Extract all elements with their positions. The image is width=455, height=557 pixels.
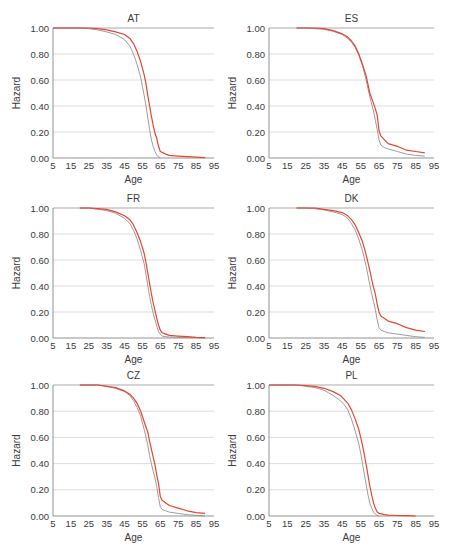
y-axis-label: Hazard (11, 77, 22, 109)
series-line-red (297, 28, 425, 153)
x-tick-label: 35 (319, 518, 330, 529)
y-tick-label: 0.60 (247, 432, 266, 443)
x-tick-label: 85 (410, 160, 421, 171)
series-line-gray (80, 385, 205, 516)
x-tick-label: 95 (429, 340, 440, 351)
x-tick-label: 5 (50, 160, 55, 171)
x-tick-label: 65 (155, 340, 166, 351)
series-line-red (80, 385, 205, 513)
x-tick-label: 35 (101, 518, 112, 529)
panel-pl: 0.000.200.400.600.801.005152535455565758… (227, 370, 439, 543)
series-line-red (297, 208, 425, 332)
y-tick-label: 0.40 (247, 101, 266, 112)
x-tick-label: 15 (282, 518, 293, 529)
y-tick-label: 0.80 (247, 406, 266, 417)
y-tick-label: 1.00 (31, 203, 50, 214)
y-axis-label: Hazard (227, 257, 238, 289)
y-tick-label: 0.60 (247, 255, 266, 266)
y-tick-label: 0.40 (247, 458, 266, 469)
y-axis-label: Hazard (227, 434, 238, 466)
y-tick-label: 0.00 (31, 333, 50, 344)
x-tick-label: 95 (209, 160, 220, 171)
y-tick-label: 0.00 (31, 153, 50, 164)
x-tick-label: 85 (191, 160, 202, 171)
x-axis-label: Age (343, 174, 361, 185)
x-tick-label: 35 (101, 160, 112, 171)
x-axis-label: Age (343, 532, 361, 543)
y-tick-label: 1.00 (247, 23, 266, 34)
y-tick-label: 0.20 (247, 307, 266, 318)
panel-title: CZ (127, 370, 140, 381)
panel-title: FR (127, 193, 140, 204)
y-tick-label: 0.60 (31, 432, 50, 443)
y-tick-label: 1.00 (31, 380, 50, 391)
y-tick-label: 0.80 (31, 49, 50, 60)
y-tick-label: 0.80 (31, 229, 50, 240)
series-line-gray (297, 28, 425, 156)
y-tick-label: 0.00 (247, 333, 266, 344)
x-tick-label: 45 (337, 160, 348, 171)
y-tick-label: 0.80 (31, 406, 50, 417)
panel-title: DK (345, 193, 359, 204)
hazard-chart-grid: 0.000.200.400.600.801.005152535455565758… (0, 0, 455, 557)
y-tick-label: 0.40 (31, 458, 50, 469)
y-axis-label: Hazard (11, 434, 22, 466)
x-tick-label: 45 (119, 518, 130, 529)
x-tick-label: 55 (137, 160, 148, 171)
y-tick-label: 0.20 (31, 127, 50, 138)
x-tick-label: 55 (355, 340, 366, 351)
x-tick-label: 45 (337, 518, 348, 529)
y-tick-label: 0.40 (247, 281, 266, 292)
x-tick-label: 35 (319, 340, 330, 351)
x-tick-label: 15 (66, 340, 77, 351)
panel-cz: 0.000.200.400.600.801.005152535455565758… (11, 370, 219, 543)
x-tick-label: 65 (374, 518, 385, 529)
x-tick-label: 5 (50, 340, 55, 351)
chart-canvas: 0.000.200.400.600.801.005152535455565758… (0, 0, 455, 557)
x-tick-label: 55 (137, 518, 148, 529)
x-tick-label: 85 (191, 518, 202, 529)
y-tick-label: 0.40 (31, 101, 50, 112)
x-tick-label: 5 (266, 518, 271, 529)
x-tick-label: 35 (319, 160, 330, 171)
panel-title: ES (345, 13, 359, 24)
x-tick-label: 25 (83, 518, 94, 529)
x-tick-label: 35 (101, 340, 112, 351)
x-axis-label: Age (125, 354, 143, 365)
y-tick-label: 0.60 (31, 255, 50, 266)
y-axis-label: Hazard (227, 77, 238, 109)
x-tick-label: 55 (137, 340, 148, 351)
y-axis-label: Hazard (11, 257, 22, 289)
x-tick-label: 85 (410, 340, 421, 351)
x-tick-label: 25 (83, 340, 94, 351)
panel-at: 0.000.200.400.600.801.005152535455565758… (11, 13, 219, 185)
x-tick-label: 85 (410, 518, 421, 529)
y-tick-label: 0.20 (31, 307, 50, 318)
y-tick-label: 1.00 (247, 380, 266, 391)
panel-dk: 0.000.200.400.600.801.005152535455565758… (227, 193, 439, 365)
x-tick-label: 65 (374, 340, 385, 351)
x-tick-label: 25 (83, 160, 94, 171)
y-tick-label: 0.60 (31, 75, 50, 86)
y-tick-label: 0.20 (247, 484, 266, 495)
x-tick-label: 45 (119, 340, 130, 351)
series-line-red (53, 28, 205, 158)
x-tick-label: 65 (155, 160, 166, 171)
x-tick-label: 75 (173, 160, 184, 171)
series-line-gray (297, 208, 425, 337)
x-tick-label: 15 (66, 518, 77, 529)
x-tick-label: 75 (392, 160, 403, 171)
x-tick-label: 75 (392, 340, 403, 351)
x-axis-label: Age (125, 174, 143, 185)
series-line-red (80, 208, 205, 338)
x-tick-label: 65 (374, 160, 385, 171)
x-tick-label: 95 (209, 340, 220, 351)
x-tick-label: 45 (119, 160, 130, 171)
x-tick-label: 75 (392, 518, 403, 529)
y-tick-label: 1.00 (247, 203, 266, 214)
x-tick-label: 25 (300, 340, 311, 351)
y-tick-label: 0.80 (247, 49, 266, 60)
y-tick-label: 0.00 (247, 153, 266, 164)
x-tick-label: 95 (209, 518, 220, 529)
x-tick-label: 5 (266, 340, 271, 351)
